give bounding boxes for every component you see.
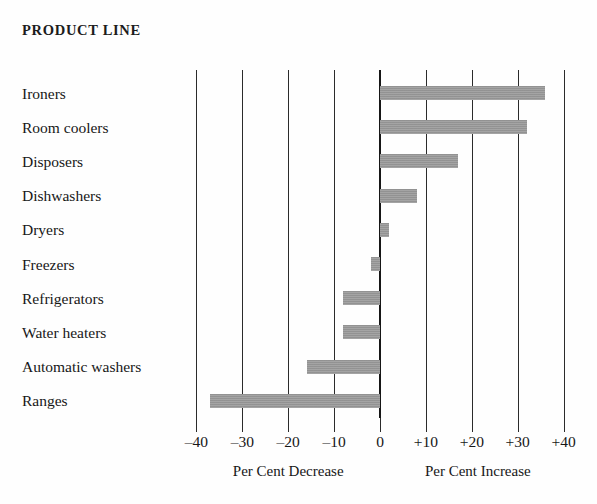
tick-mark--40 (196, 418, 197, 432)
bar (380, 86, 545, 100)
category-label: Ranges (22, 393, 68, 409)
axis-caption-increase: Per Cent Increase (425, 464, 531, 479)
bar (380, 189, 417, 203)
gridline-40 (564, 70, 565, 418)
gridline--30 (242, 70, 243, 418)
category-label: Automatic washers (22, 359, 141, 375)
tick-mark-0 (380, 418, 381, 432)
tick-mark--10 (334, 418, 335, 432)
tick-mark-20 (472, 418, 473, 432)
axis-tick-label: –30 (231, 434, 254, 450)
category-label: Room coolers (22, 120, 109, 136)
plot-area: –40–30–20–100+10+20+30+40IronersRoom coo… (0, 0, 597, 504)
axis-tick-label: –10 (322, 434, 345, 450)
tick-mark--20 (288, 418, 289, 432)
tick-mark--30 (242, 418, 243, 432)
axis-tick-label: 0 (376, 434, 384, 450)
axis-tick-label: +40 (551, 434, 575, 450)
axis-tick-label: +30 (506, 434, 530, 450)
axis-tick-label: –20 (277, 434, 300, 450)
chart-root: PRODUCT LINE –40–30–20–100+10+20+30+40Ir… (0, 0, 597, 504)
bar (343, 325, 380, 339)
category-label: Dishwashers (22, 188, 101, 204)
axis-tick-label: +10 (414, 434, 438, 450)
tick-mark-30 (518, 418, 519, 432)
gridline--20 (288, 70, 289, 418)
bar (210, 394, 380, 408)
bar (307, 360, 380, 374)
gridline--40 (196, 70, 197, 418)
bar (343, 291, 380, 305)
axis-caption-decrease: Per Cent Decrease (233, 464, 344, 479)
category-label: Disposers (22, 154, 83, 170)
category-label: Ironers (22, 86, 66, 102)
axis-tick-label: +20 (460, 434, 484, 450)
tick-mark-10 (426, 418, 427, 432)
bar (380, 223, 389, 237)
bar (371, 257, 380, 271)
category-label: Water heaters (22, 325, 106, 341)
axis-tick-label: –40 (185, 434, 208, 450)
bar (380, 120, 527, 134)
bar (380, 154, 458, 168)
category-label: Freezers (22, 257, 75, 273)
tick-mark-40 (564, 418, 565, 432)
category-label: Dryers (22, 222, 64, 238)
category-label: Refrigerators (22, 291, 104, 307)
